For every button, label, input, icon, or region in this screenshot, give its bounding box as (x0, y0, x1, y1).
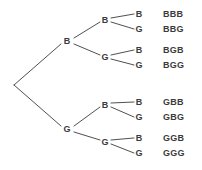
tree-edge-n-gg-to-n-ggg (111, 144, 134, 153)
tree-edge-group (14, 14, 134, 153)
tree-node-n-ggg: G (133, 148, 145, 158)
outcome-bgb: BGB (163, 45, 184, 55)
tree-node-n-bb: B (99, 15, 111, 25)
tree-edge-n-gb-to-n-gbg (111, 107, 134, 117)
outcome-ggg: GGG (163, 148, 185, 158)
outcome-gbb: GBB (163, 97, 184, 107)
tree-node-n-ggb: B (133, 133, 145, 143)
tree-edge-n-b-to-n-bb (74, 22, 100, 38)
tree-edge-root-to-n-b (14, 44, 61, 85)
tree-node-n-bgb: B (133, 45, 145, 55)
outcome-gbg: GBG (163, 112, 184, 122)
tree-edge-n-g-to-n-gg (74, 132, 100, 140)
tree-node-n-gbb: B (133, 97, 145, 107)
tree-node-n-bg: G (99, 52, 111, 62)
outcome-bbb: BBB (163, 9, 183, 19)
tree-node-n-gg: G (99, 137, 111, 147)
tree-edge-n-bg-to-n-bgb (111, 50, 134, 55)
tree-node-n-g: G (61, 124, 73, 134)
tree-node-n-b: B (61, 36, 73, 46)
tree-edge-n-bb-to-n-bbb (111, 14, 134, 18)
tree-node-n-gb: B (99, 100, 111, 110)
tree-node-n-bbb: B (133, 9, 145, 19)
tree-edge-n-b-to-n-bg (74, 44, 100, 55)
tree-edge-n-bb-to-n-bbg (111, 22, 134, 29)
tree-edge-n-bg-to-n-bgg (111, 59, 134, 65)
tree-node-n-gbg: G (133, 112, 145, 122)
tree-edge-n-gg-to-n-ggb (111, 138, 134, 140)
tree-edge-n-g-to-n-gb (74, 107, 100, 126)
tree-node-n-bbg: G (133, 24, 145, 34)
tree-edge-root-to-n-g (14, 85, 61, 126)
tree-node-n-bgg: G (133, 60, 145, 70)
probability-tree-diagram: BGBGBGBGBGBGBG BBBBBGBGBBGGGBBGBGGGBGGG (0, 0, 202, 170)
outcome-bbg: BBG (163, 24, 184, 34)
outcome-ggb: GGB (163, 133, 184, 143)
tree-edge-n-gb-to-n-gbb (111, 102, 134, 103)
outcome-bgg: BGG (163, 60, 184, 70)
